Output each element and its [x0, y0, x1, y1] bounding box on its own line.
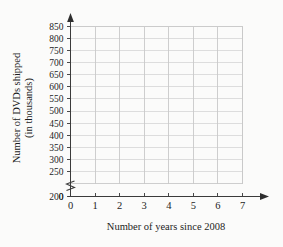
y-tick-label: 300 — [49, 155, 64, 165]
y-tick-label: 350 — [49, 143, 64, 153]
x-axis-title: Number of years since 2008 — [107, 221, 225, 232]
y-tick-label: 850 — [49, 22, 64, 32]
y-tick-label: 650 — [49, 70, 64, 80]
y-axis-title-line1: Number of DVDs shipped — [11, 52, 22, 163]
y-tick-label: 600 — [49, 82, 64, 92]
y-tick-label: 250 — [49, 167, 64, 177]
x-tick-label: 5 — [191, 200, 196, 211]
y-axis-break-icon — [67, 181, 75, 191]
x-axis-tick-labels: 01234567 — [68, 200, 245, 211]
y-tick-label: 700 — [49, 58, 64, 68]
y-axis-title-line2: (in thousands) — [23, 78, 35, 138]
y-axis-tick-labels: 0200250300350400450500550600650700750800… — [49, 22, 64, 202]
x-axis-arrow-icon — [260, 193, 269, 200]
x-tick-label: 3 — [142, 200, 147, 211]
y-tick-label: 500 — [49, 106, 64, 116]
horizontal-gridlines — [71, 27, 243, 197]
x-tick-label: 1 — [92, 200, 97, 211]
empty-coordinate-grid-chart: 0200250300350400450500550600650700750800… — [0, 0, 283, 247]
x-tick-label: 4 — [166, 200, 172, 211]
plot-area-border — [71, 27, 243, 184]
x-tick-label: 6 — [215, 200, 220, 211]
y-tick-label: 200 — [49, 192, 64, 202]
y-tick-label: 750 — [49, 46, 64, 56]
y-tick-label: 550 — [49, 94, 64, 104]
y-tick-label: 800 — [49, 34, 64, 44]
y-axis-arrow-icon — [67, 13, 74, 22]
x-tick-label: 7 — [240, 200, 245, 211]
vertical-gridlines — [71, 27, 243, 184]
y-tick-label: 400 — [49, 131, 64, 141]
chart-container: 0200250300350400450500550600650700750800… — [0, 0, 283, 247]
y-tick-label: 450 — [49, 119, 64, 129]
x-tick-label: 2 — [117, 200, 122, 211]
x-tick-label: 0 — [68, 200, 73, 211]
